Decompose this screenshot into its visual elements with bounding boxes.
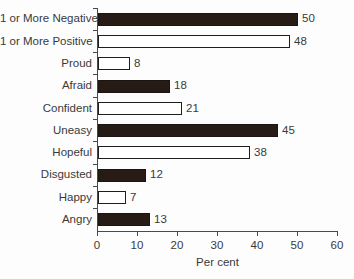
category-label-1-or-more-negative: 1 or More Negative <box>0 13 97 25</box>
value-label-disgusted: 12 <box>150 169 163 181</box>
x-tick-label-10: 10 <box>131 240 144 252</box>
value-label-1-or-more-negative: 50 <box>302 13 315 25</box>
y-axis-tick <box>93 208 97 209</box>
y-axis-tick <box>93 74 97 75</box>
bar-track-hopeful: 38 <box>97 142 354 164</box>
value-label-angry: 13 <box>154 214 167 226</box>
x-axis-tick-20 <box>177 232 178 236</box>
bar-track-1-or-more-positive: 48 <box>97 30 354 52</box>
bar-track-proud: 8 <box>97 53 354 75</box>
category-label-afraid: Afraid <box>0 80 97 92</box>
bar-confident <box>98 102 182 115</box>
y-axis-tick <box>93 119 97 120</box>
category-label-hopeful: Hopeful <box>0 147 97 159</box>
value-label-happy: 7 <box>130 192 136 204</box>
bar-row-happy: Happy7 <box>0 186 354 208</box>
y-axis-tick <box>93 186 97 187</box>
category-label-angry: Angry <box>0 214 97 226</box>
value-label-hopeful: 38 <box>254 147 267 159</box>
x-axis-tick-30 <box>217 232 218 236</box>
x-tick-label-50: 50 <box>291 240 304 252</box>
bar-row-angry: Angry13 <box>0 209 354 231</box>
y-axis-tick <box>93 164 97 165</box>
x-tick-label-0: 0 <box>94 240 100 252</box>
category-label-proud: Proud <box>0 58 97 70</box>
plot-area: 1 or More Negative501 or More Positive48… <box>0 8 354 231</box>
y-axis-tick <box>93 52 97 53</box>
x-axis-tick-50 <box>297 232 298 236</box>
x-axis-tick-0 <box>97 232 98 236</box>
bar-track-disgusted: 12 <box>97 164 354 186</box>
bar-afraid <box>98 80 170 93</box>
bar-track-1-or-more-negative: 50 <box>97 8 354 30</box>
bar-1-or-more-positive <box>98 35 290 48</box>
bar-disgusted <box>98 169 146 182</box>
bar-row-1-or-more-positive: 1 or More Positive48 <box>0 30 354 52</box>
y-axis-tick <box>93 30 97 31</box>
x-axis-title: Per cent <box>97 257 338 269</box>
bar-row-disgusted: Disgusted12 <box>0 164 354 186</box>
bar-track-afraid: 18 <box>97 75 354 97</box>
bar-uneasy <box>98 124 278 137</box>
x-axis: 0102030405060 <box>97 231 338 256</box>
bar-hopeful <box>98 146 250 159</box>
bar-track-happy: 7 <box>97 186 354 208</box>
bar-angry <box>98 213 150 226</box>
category-label-happy: Happy <box>0 192 97 204</box>
x-axis-tick-10 <box>137 232 138 236</box>
bar-happy <box>98 191 126 204</box>
bar-1-or-more-negative <box>98 13 298 26</box>
bar-chart: 1 or More Negative501 or More Positive48… <box>0 0 354 279</box>
bar-row-1-or-more-negative: 1 or More Negative50 <box>0 8 354 30</box>
bar-row-uneasy: Uneasy45 <box>0 119 354 141</box>
category-label-confident: Confident <box>0 103 97 115</box>
bar-row-hopeful: Hopeful38 <box>0 142 354 164</box>
bar-track-angry: 13 <box>97 209 354 231</box>
x-tick-label-40: 40 <box>251 240 264 252</box>
bar-track-confident: 21 <box>97 97 354 119</box>
value-label-1-or-more-positive: 48 <box>294 36 307 48</box>
value-label-uneasy: 45 <box>282 125 295 137</box>
x-axis-tick-40 <box>257 232 258 236</box>
value-label-confident: 21 <box>186 103 199 115</box>
x-axis-tick-60 <box>337 232 338 236</box>
bar-row-proud: Proud8 <box>0 53 354 75</box>
bar-row-confident: Confident21 <box>0 97 354 119</box>
bar-proud <box>98 57 130 70</box>
bar-row-afraid: Afraid18 <box>0 75 354 97</box>
y-axis-tick <box>93 97 97 98</box>
bar-track-uneasy: 45 <box>97 119 354 141</box>
x-tick-label-60: 60 <box>331 240 344 252</box>
x-tick-label-20: 20 <box>171 240 184 252</box>
category-label-1-or-more-positive: 1 or More Positive <box>0 36 97 48</box>
x-tick-label-30: 30 <box>211 240 224 252</box>
category-label-uneasy: Uneasy <box>0 125 97 137</box>
y-axis-tick <box>93 8 97 9</box>
value-label-afraid: 18 <box>174 80 187 92</box>
y-axis-tick <box>93 141 97 142</box>
value-label-proud: 8 <box>134 58 140 70</box>
category-label-disgusted: Disgusted <box>0 169 97 181</box>
